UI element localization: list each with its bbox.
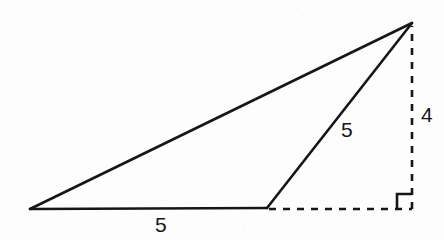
base-edge (30, 208, 267, 209)
slant-length-label: 5 (341, 119, 353, 140)
geometry-figure: 5 5 4 (0, 0, 444, 240)
triangle-drawing-canvas (0, 0, 444, 240)
base-length-label: 5 (155, 214, 167, 235)
right-angle-marker (397, 194, 412, 209)
altitude-length-label: 4 (421, 104, 433, 125)
hypotenuse-edge (30, 23, 412, 209)
slant-edge (267, 23, 412, 208)
